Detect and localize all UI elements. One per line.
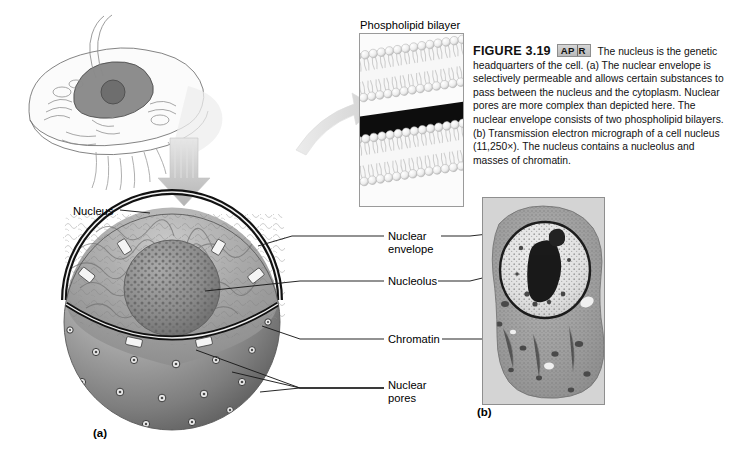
label-nucleolus: Nucleolus <box>388 275 437 288</box>
nucleus-illustration <box>42 192 290 430</box>
figure-caption: FIGURE 3.19 APR The nucleus is the genet… <box>473 44 731 167</box>
phospholipid-bilayer-image <box>359 33 464 207</box>
panel-label-b: (b) <box>477 406 492 418</box>
panel-label-a: (a) <box>93 427 107 439</box>
label-nuclear-pores: Nuclear pores <box>388 379 427 405</box>
cell-overview-drawing <box>29 15 222 190</box>
nuclear-pores-surface <box>42 208 275 428</box>
apr-badge-r: R <box>577 45 587 56</box>
phospholipid-bilayer-title: Phospholipid bilayer <box>360 19 460 32</box>
pore-gaps-on-rim <box>78 238 265 347</box>
label-nuclear-envelope: Nuclear envelope <box>388 230 433 256</box>
tem-micrograph-image <box>482 197 605 405</box>
label-chromatin: Chromatin <box>388 333 440 346</box>
figure-caption-text: The nucleus is the genetic headquarters … <box>473 46 724 166</box>
nucleolus-sphere <box>124 240 220 336</box>
label-nucleus: Nucleus <box>73 205 113 218</box>
apr-badge-ap: AP <box>561 45 575 56</box>
zoom-arrow-down <box>158 138 210 206</box>
apr-badge: APR <box>557 44 591 57</box>
figure-number: FIGURE 3.19 <box>473 44 551 58</box>
